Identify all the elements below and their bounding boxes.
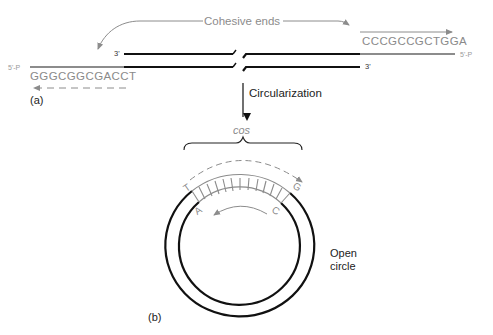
cos-dashed-arrow <box>190 160 302 182</box>
inner-arc-arrow <box>214 206 267 215</box>
cos-label: cos <box>233 125 250 136</box>
diagram-canvas <box>0 0 493 335</box>
right-sequence: CCCGCCGCTGGA <box>362 36 467 48</box>
circularization-label: Circularization <box>249 88 322 100</box>
open-circle-label: Open circle <box>330 247 357 273</box>
left-five-prime-label: 5'-P <box>8 64 20 71</box>
left-sequence: GGGCGGCGACCT <box>30 71 136 83</box>
right-three-prime-label: 3' <box>365 63 371 71</box>
left-three-prime-label: 3' <box>114 50 120 58</box>
open-circle-line2: circle <box>330 260 357 273</box>
panel-a-label: (a) <box>30 95 43 106</box>
inner-strand-circle <box>179 202 300 305</box>
cohesive-ends-label: Cohesive ends <box>204 16 280 28</box>
cos-brace <box>184 137 302 150</box>
upper-strand <box>124 50 455 58</box>
outer-strand-circle <box>165 191 314 316</box>
cos-box <box>192 174 290 203</box>
open-circle-line1: Open <box>330 247 357 260</box>
right-five-prime-label: 5'-P <box>460 51 472 58</box>
panel-b-label: (b) <box>148 312 161 323</box>
